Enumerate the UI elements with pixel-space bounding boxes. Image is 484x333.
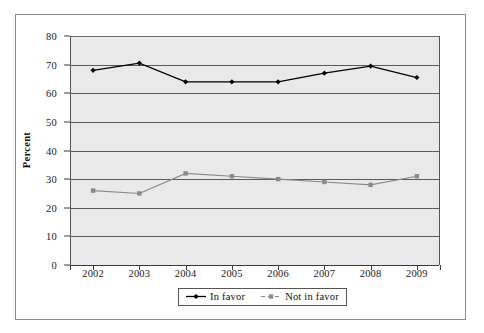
y-tick-mark-50 xyxy=(64,121,70,122)
y-tick-label-0: 0 xyxy=(52,260,57,271)
y-tick-label-40: 40 xyxy=(46,145,57,156)
gridline-60 xyxy=(71,93,439,94)
x-tick-mark-2007 xyxy=(324,265,325,270)
y-tick-mark-80 xyxy=(64,36,70,37)
y-tick-label-60: 60 xyxy=(46,88,57,99)
y-axis: 80706050403020100 xyxy=(0,0,70,333)
gridline-30 xyxy=(71,179,439,180)
chart-legend: In favorNot in favor xyxy=(178,288,347,306)
y-tick-mark-40 xyxy=(64,150,70,151)
x-tick-mark-2005 xyxy=(232,265,233,270)
gridline-20 xyxy=(71,208,439,209)
gridline-40 xyxy=(71,151,439,152)
legend-entry-in-favor: In favor xyxy=(186,291,245,302)
y-tick-mark-20 xyxy=(64,207,70,208)
y-tick-mark-60 xyxy=(64,93,70,94)
y-tick-label-80: 80 xyxy=(46,31,57,42)
x-axis-end-tick-0 xyxy=(70,265,71,270)
gridline-0 xyxy=(71,265,439,266)
gridline-10 xyxy=(71,236,439,237)
y-tick-label-10: 10 xyxy=(46,231,57,242)
y-tick-label-50: 50 xyxy=(46,116,57,127)
legend-marker-icon xyxy=(261,292,281,301)
plot-area xyxy=(70,36,440,265)
legend-label: Not in favor xyxy=(285,291,339,302)
x-axis-end-tick-1 xyxy=(440,265,441,270)
x-tick-mark-2008 xyxy=(371,265,372,270)
x-tick-mark-2009 xyxy=(417,265,418,270)
gridline-50 xyxy=(71,122,439,123)
y-tick-label-20: 20 xyxy=(46,202,57,213)
gridline-70 xyxy=(71,65,439,66)
legend-entry-not-in-favor: Not in favor xyxy=(261,291,339,302)
x-tick-mark-2006 xyxy=(278,265,279,270)
x-axis: 20022003200420052006200720082009 xyxy=(70,268,440,288)
legend-label: In favor xyxy=(210,291,245,302)
y-tick-mark-10 xyxy=(64,236,70,237)
y-tick-label-70: 70 xyxy=(46,59,57,70)
x-tick-mark-2002 xyxy=(93,265,94,270)
y-tick-label-30: 30 xyxy=(46,174,57,185)
x-tick-mark-2003 xyxy=(139,265,140,270)
y-axis-title: Percent xyxy=(21,132,32,168)
y-tick-mark-30 xyxy=(64,179,70,180)
legend-marker-icon xyxy=(186,292,206,301)
gridline-80 xyxy=(71,36,439,37)
chart-figure: 80706050403020100 Percent 20022003200420… xyxy=(0,0,484,333)
y-tick-mark-70 xyxy=(64,64,70,65)
x-tick-mark-2004 xyxy=(186,265,187,270)
